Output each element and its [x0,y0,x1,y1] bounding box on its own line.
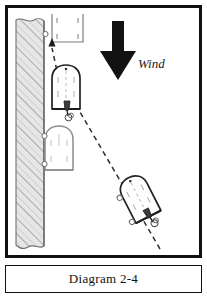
diagram-panel: Wind [5,5,202,258]
caption-text: Diagram 2-4 [69,271,138,287]
dock-pier [16,19,44,249]
diagram-page: Wind Diagram 2-4 [0,0,207,296]
piling-icon-slip [43,31,48,36]
fender-icon-bow [42,133,47,138]
diagram-canvas: Wind [8,8,199,255]
fender-icon-stern [42,161,47,166]
boat-docked [45,126,73,170]
wind-label: Wind [138,56,165,71]
caption-box: Diagram 2-4 [5,265,202,293]
